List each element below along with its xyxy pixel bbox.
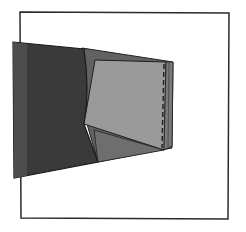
dark-panel-edge-band — [13, 42, 27, 178]
illustration-canvas — [0, 0, 246, 232]
sewing-illustration: Fabric panels with folded piece and stit… — [0, 0, 246, 232]
